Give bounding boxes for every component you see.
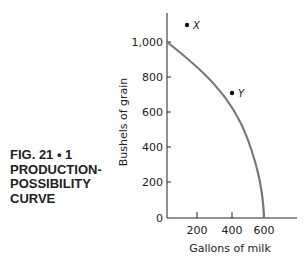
y-tick-label: 400 <box>142 141 163 154</box>
y-tick-label: 1,000 <box>132 36 164 49</box>
x-tick-label: 600 <box>254 224 275 237</box>
x-tick-label: 200 <box>187 224 208 237</box>
point-y-label: Y <box>238 88 245 99</box>
point-x-label: X <box>192 20 201 31</box>
production-possibility-curve <box>167 42 264 218</box>
y-axis-title: Bushels of grain <box>117 78 130 167</box>
x-ticks <box>197 212 264 218</box>
point-y-marker <box>230 91 234 95</box>
y-tick-label: 800 <box>142 71 163 84</box>
x-axis-title: Gallons of milk <box>189 242 271 255</box>
y-tick-label: 0 <box>156 212 163 225</box>
chart: 1,000 800 600 400 200 0 200 400 600 Gall… <box>0 0 306 258</box>
y-tick-label: 200 <box>142 176 163 189</box>
y-tick-label: 600 <box>142 106 163 119</box>
point-x-marker <box>185 23 189 27</box>
y-ticks <box>167 42 171 182</box>
x-tick-label: 400 <box>222 224 243 237</box>
